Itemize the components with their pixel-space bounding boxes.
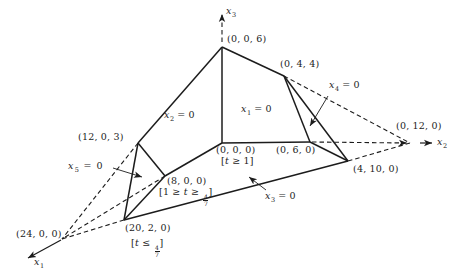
face-label-x5-eq-0: x5 = 0 bbox=[68, 161, 104, 171]
edge-0-4-4-to-0-6-0 bbox=[284, 76, 310, 142]
polytope-figure: x3 x2 x1 x2 = 0 x1 = 0 x4 = 0 x5 = 0 x3 … bbox=[0, 0, 457, 279]
edge-apex-to-0-4-4 bbox=[222, 47, 284, 76]
vertex-label-0-0-6: (0, 0, 6) bbox=[227, 34, 266, 44]
dashed-20-2-0-to-24-0-0 bbox=[62, 220, 124, 239]
constraint-label-t-le-4-7: [t ≤ 47] bbox=[131, 238, 164, 259]
edge-0-6-0-to-4-10-0 bbox=[310, 142, 348, 161]
constraint-label-t-ge-1: [t ≥ 1] bbox=[221, 156, 254, 166]
dashed-4-10-0-to-0-12-0 bbox=[348, 143, 410, 161]
x1-axis-arrow bbox=[28, 240, 61, 258]
edge-origin-to-0-6-0 bbox=[222, 142, 310, 143]
dashed-0-6-0-to-0-12-0 bbox=[312, 142, 407, 143]
edge-12-0-3-to-20-2-0 bbox=[124, 143, 138, 220]
vertex-label-4-10-0: (4, 10, 0) bbox=[353, 164, 399, 174]
face-label-x3-eq-0: x3 = 0 bbox=[265, 191, 296, 201]
vertex-label-0-6-0: (0, 6, 0) bbox=[276, 145, 315, 155]
x5-face-pointer-arrow bbox=[113, 168, 142, 177]
x2-axis-label: x2 bbox=[437, 137, 447, 147]
dashed-extensions bbox=[62, 14, 410, 239]
annotation-arrows bbox=[113, 96, 328, 190]
face-label-x2-eq-0: x2 = 0 bbox=[164, 110, 195, 120]
x3-axis-label: x3 bbox=[226, 6, 236, 16]
face-label-x4-eq-0: x4 = 0 bbox=[329, 80, 360, 90]
vertex-label-12-0-3: (12, 0, 3) bbox=[78, 132, 124, 142]
constraint-label-1-ge-t-ge-4-7: [1 ≥ t ≥ 47] bbox=[159, 187, 212, 208]
edge-apex-to-12-0-3 bbox=[138, 47, 222, 143]
solid-edges bbox=[124, 47, 348, 220]
vertex-label-24-0-0: (24, 0, 0) bbox=[16, 229, 62, 239]
vertex-label-0-4-4: (0, 4, 4) bbox=[280, 59, 319, 69]
vertex-label-20-2-0: (20, 2, 0) bbox=[125, 223, 171, 233]
vertex-label-8-0-0: (8, 0, 0) bbox=[167, 176, 206, 186]
edge-12-0-3-to-8-0-0 bbox=[138, 143, 165, 176]
edge-20-2-0-to-4-10-0 bbox=[124, 161, 348, 220]
vertex-label-0-0-0: (0, 0, 0) bbox=[216, 145, 255, 155]
face-label-x1-eq-0: x1 = 0 bbox=[241, 104, 272, 114]
x1-axis-label: x1 bbox=[34, 257, 44, 267]
edge-8-0-0-to-origin bbox=[165, 143, 222, 176]
vertex-label-0-12-0: (0, 12, 0) bbox=[396, 121, 442, 131]
